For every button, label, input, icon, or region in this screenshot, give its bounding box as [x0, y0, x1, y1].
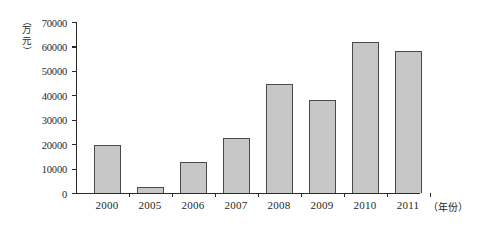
y-axis-tick-label: 60000	[42, 42, 67, 53]
y-axis-unit-label: （ 万 元 ）	[17, 17, 37, 54]
y-axis-tick: 30000	[72, 120, 77, 121]
bar	[309, 100, 336, 193]
y-axis-line	[76, 22, 77, 193]
y-axis-tick-label: 40000	[42, 90, 67, 101]
y-axis-tick: 0	[72, 193, 77, 194]
y-axis-tick: 70000	[72, 22, 77, 23]
y-unit-open-paren: （	[23, 11, 31, 31]
y-axis-tick-label: 50000	[42, 66, 67, 77]
bar	[180, 162, 207, 193]
bar	[223, 138, 250, 193]
x-axis-tick	[430, 193, 431, 197]
y-axis-tick: 60000	[72, 46, 77, 47]
x-axis-tick	[301, 193, 302, 197]
y-unit-close-paren: ）	[23, 40, 31, 60]
bar	[395, 51, 422, 193]
y-axis-tick-label: 30000	[42, 115, 67, 126]
bar	[94, 145, 121, 193]
y-axis-tick-label: 70000	[42, 17, 67, 28]
x-axis-tick	[129, 193, 130, 197]
x-axis-title: （年份）	[428, 199, 468, 214]
plot-area: 010000200003000040000500006000070000 200…	[76, 22, 420, 193]
y-axis-tick: 40000	[72, 95, 77, 96]
bar	[352, 42, 379, 193]
bar-chart-figure: （ 万 元 ） 01000020000300004000050000600007…	[0, 0, 480, 227]
x-axis-tick	[215, 193, 216, 197]
bar	[137, 187, 164, 193]
x-axis-tick	[172, 193, 173, 197]
x-axis-tick	[387, 193, 388, 197]
y-axis-tick: 50000	[72, 71, 77, 72]
y-axis-tick: 20000	[72, 144, 77, 145]
bar	[266, 84, 293, 193]
x-axis-tick	[344, 193, 345, 197]
y-axis-tick-label: 20000	[42, 139, 67, 150]
y-axis-tick-label: 10000	[42, 164, 67, 175]
y-axis-tick: 10000	[72, 169, 77, 170]
x-axis-tick	[258, 193, 259, 197]
y-axis-tick-label: 0	[62, 188, 67, 199]
